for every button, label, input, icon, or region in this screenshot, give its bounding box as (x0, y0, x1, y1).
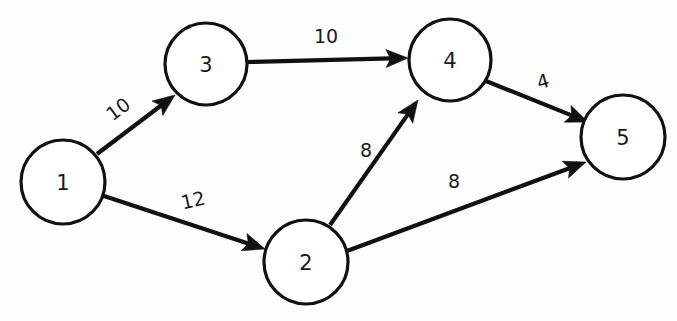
node-3[interactable]: 3 (165, 23, 247, 105)
arrowhead-icon (398, 100, 418, 123)
edge-weight-1-3: 10 (102, 93, 135, 125)
edge-4-5 (486, 81, 588, 122)
node-1[interactable]: 1 (21, 140, 105, 224)
node-label-2: 2 (299, 251, 312, 275)
node-4[interactable]: 4 (409, 19, 491, 101)
edge-weight-1-2: 12 (179, 187, 208, 214)
edge-weight-4-5: 4 (534, 69, 552, 93)
edge-3-4 (247, 50, 408, 68)
edge-weight-3-4: 10 (314, 25, 338, 47)
edge-2-4 (330, 100, 418, 225)
graph-svg: 12345 101012884 (0, 0, 677, 321)
node-label-1: 1 (56, 171, 69, 195)
diagram-canvas: 12345 101012884 (0, 0, 677, 321)
node-label-3: 3 (199, 53, 212, 77)
node-5[interactable]: 5 (581, 95, 665, 179)
edge-2-5 (347, 161, 586, 251)
edge-weight-2-4: 8 (360, 139, 372, 161)
node-2[interactable]: 2 (264, 220, 348, 304)
node-label-4: 4 (443, 49, 456, 73)
edge-weight-2-5: 8 (448, 170, 460, 192)
node-label-5: 5 (616, 126, 629, 150)
